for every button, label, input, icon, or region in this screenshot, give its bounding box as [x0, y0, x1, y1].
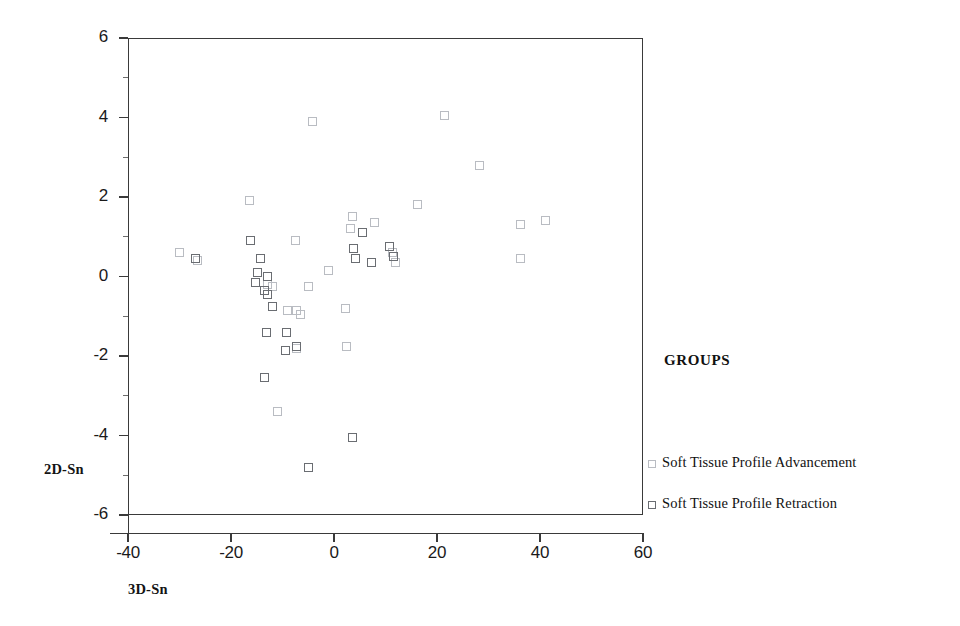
y-tick-label: 6 [48, 27, 108, 47]
y-tick-minor-mark [123, 236, 128, 237]
data-point [260, 373, 269, 382]
y-tick-label: -2 [48, 345, 108, 365]
legend-entry-label: Soft Tissue Profile Advancement [662, 454, 856, 471]
x-tick-label: -40 [93, 543, 163, 563]
data-point [191, 254, 200, 263]
legend-title: GROUPS [664, 352, 730, 369]
y-tick-minor-mark [123, 475, 128, 476]
y-tick-label: 2 [48, 186, 108, 206]
x-axis-line [110, 533, 643, 534]
data-point [342, 342, 351, 351]
y-tick-mark [119, 37, 128, 38]
data-point [282, 328, 291, 337]
legend-swatch-icon [648, 501, 656, 509]
x-tick-mark [127, 533, 128, 542]
data-point [440, 111, 449, 120]
data-point [296, 310, 305, 319]
data-point [291, 236, 300, 245]
data-point [370, 218, 379, 227]
data-point [263, 272, 272, 281]
data-point [324, 266, 333, 275]
data-point [367, 258, 376, 267]
data-point [385, 242, 394, 251]
data-point [175, 248, 184, 257]
y-axis-title: 2D-Sn [44, 461, 84, 478]
data-point [348, 212, 357, 221]
data-point [358, 228, 367, 237]
y-tick-label: -6 [48, 504, 108, 524]
x-axis-title: 3D-Sn [128, 581, 168, 598]
data-point [304, 463, 313, 472]
data-point [281, 346, 290, 355]
data-point [341, 304, 350, 313]
data-point [304, 282, 313, 291]
y-tick-minor-mark [123, 77, 128, 78]
y-tick-label: -4 [48, 425, 108, 445]
x-tick-mark [333, 533, 334, 542]
x-tick-label: 20 [402, 543, 472, 563]
x-tick-mark [436, 533, 437, 542]
y-tick-mark [119, 514, 128, 515]
y-tick-mark [119, 355, 128, 356]
x-tick-mark [230, 533, 231, 542]
data-point [348, 433, 357, 442]
y-tick-mark [119, 117, 128, 118]
x-tick-label: -20 [196, 543, 266, 563]
y-tick-minor-mark [123, 316, 128, 317]
y-tick-minor-mark [123, 395, 128, 396]
y-tick-mark [119, 276, 128, 277]
plot-area [128, 38, 643, 515]
data-point [262, 328, 271, 337]
x-tick-label: 60 [608, 543, 678, 563]
data-point [541, 216, 550, 225]
x-tick-label: 40 [505, 543, 575, 563]
y-tick-label: 0 [48, 266, 108, 286]
y-tick-label: 4 [48, 107, 108, 127]
data-point [413, 200, 422, 209]
legend-entry-label: Soft Tissue Profile Retraction [662, 495, 837, 512]
data-point [475, 161, 484, 170]
y-tick-mark [119, 196, 128, 197]
data-point [245, 196, 254, 205]
data-point [268, 302, 277, 311]
data-point [516, 220, 525, 229]
data-point [256, 254, 265, 263]
y-tick-minor-mark [123, 157, 128, 158]
data-point [346, 224, 355, 233]
data-point [246, 236, 255, 245]
y-axis-line [128, 38, 129, 535]
data-point [253, 268, 262, 277]
data-point [283, 306, 292, 315]
data-point [273, 407, 282, 416]
data-point [292, 342, 301, 351]
x-tick-label: 0 [299, 543, 369, 563]
x-tick-mark [642, 533, 643, 542]
data-point [351, 254, 360, 263]
data-point [516, 254, 525, 263]
legend-swatch-icon [648, 460, 656, 468]
data-point [251, 278, 260, 287]
x-tick-mark [539, 533, 540, 542]
data-point [308, 117, 317, 126]
data-point [263, 290, 272, 299]
y-tick-mark [119, 435, 128, 436]
data-point [349, 244, 358, 253]
data-point [389, 252, 398, 261]
